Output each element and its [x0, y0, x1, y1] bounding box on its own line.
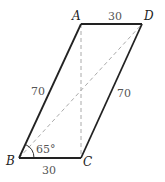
parallelogram-diagram: A D B C 30 30 70 70 65° — [0, 0, 165, 182]
side-ab — [19, 24, 81, 158]
vertex-label-a: A — [71, 9, 81, 23]
vertex-label-d: D — [143, 9, 154, 23]
length-ab: 70 — [31, 85, 45, 98]
length-ad: 30 — [108, 10, 122, 23]
length-cd: 70 — [117, 87, 131, 100]
vertex-label-b: B — [5, 154, 15, 168]
side-cd — [81, 24, 142, 158]
vertex-label-c: C — [83, 155, 92, 169]
angle-label-b: 65° — [36, 143, 56, 156]
length-bc: 30 — [42, 164, 56, 177]
